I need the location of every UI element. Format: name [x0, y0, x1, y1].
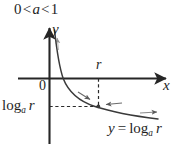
- y-value-marker-label: loga r: [2, 98, 35, 115]
- condition-label: 0<a<1: [14, 2, 58, 17]
- guide-lines-group: [50, 79, 101, 109]
- condition-right: 1: [51, 1, 59, 17]
- log-curve: [55, 30, 159, 119]
- condition-left: 0: [14, 1, 22, 17]
- direction-annotations-group: [57, 38, 157, 113]
- log-argument: r: [29, 97, 35, 113]
- equation-equals-sign: =: [118, 120, 126, 136]
- condition-op-1: <: [22, 1, 33, 17]
- origin-label: 0: [39, 79, 46, 93]
- log-base-subscript: a: [21, 105, 26, 115]
- condition-op-2: <: [40, 1, 51, 17]
- equation-argument: r: [156, 120, 162, 136]
- curve-equation-label: y = loga r: [108, 121, 162, 138]
- condition-base: a: [32, 1, 40, 17]
- log-function-name: log: [2, 97, 21, 113]
- logarithm-graph-figure: 0<a<1 y x 0 r loga r y = loga r: [0, 0, 177, 144]
- y-axis-label: y: [52, 22, 59, 37]
- right-direction-arrow: [140, 112, 157, 113]
- x-value-marker-label: r: [96, 58, 101, 72]
- left-direction-arrow: [106, 103, 122, 105]
- x-axis-label: x: [163, 78, 170, 93]
- equation-lhs: y: [108, 120, 115, 136]
- curve-point-marker: [96, 105, 100, 109]
- equation-log-base: a: [148, 128, 153, 138]
- equation-log-function: log: [129, 120, 148, 136]
